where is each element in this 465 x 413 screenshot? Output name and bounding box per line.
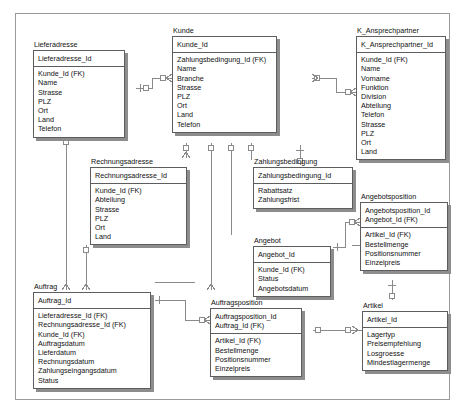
dot-k3	[229, 145, 234, 150]
er-diagram-canvas: Lieferadresse Lieferadresse_Id Kunde_Id …	[0, 0, 465, 413]
entity-box[interactable]: Angebot_Id Kunde_Id (FK) Status Angebots…	[253, 246, 331, 297]
attribute-row: Positionsnummer	[365, 249, 443, 258]
entity-box[interactable]: K_Ansprechpartner_Id Kunde_Id (FK) Name …	[356, 36, 446, 160]
entity-attribute-section: Kunde_Id (FK) Abteilung Strasse PLZ Ort …	[91, 184, 186, 245]
key-attribute: Angebotsposition_Id	[365, 206, 443, 215]
attribute-row: Ort	[38, 106, 120, 115]
attribute-row: Einzelpreis	[365, 258, 443, 267]
key-attribute: Zahlungsbedingung_Id	[258, 171, 348, 180]
attribute-row: Zahlungsbedingung_Id (FK)	[177, 55, 272, 64]
attribute-row: Kunde_Id (FK)	[38, 330, 146, 339]
attribute-row: Strasse	[177, 83, 272, 92]
attribute-row: Ort	[177, 101, 272, 110]
attribute-row: Ort	[361, 138, 441, 147]
attribute-row: Strasse	[361, 120, 441, 129]
key-attribute: Auftrag_Id (FK)	[215, 321, 297, 330]
entity-key-section: Kunde_Id	[173, 37, 276, 53]
key-attribute: Auftrag_Id	[38, 296, 146, 305]
dot-k4	[249, 145, 254, 150]
attribute-row: Name	[177, 64, 272, 73]
entity-box[interactable]: Rechnungsadresse_Id Kunde_Id (FK) Abteil…	[90, 167, 187, 245]
attribute-row: Division	[361, 92, 441, 101]
dot-k1	[184, 145, 189, 150]
entity-key-section: Auftragsposition_Id Auftrag_Id (FK)	[211, 309, 301, 334]
entity-key-section: Lieferadresse_Id	[34, 51, 124, 67]
dot-art-a	[390, 293, 395, 298]
attribute-row: Abteilung	[95, 195, 182, 204]
entity-angebotsposition[interactable]: Angebotsposition Angebotsposition_Id Ang…	[360, 192, 448, 271]
key-attribute: K_Ansprechpartner_Id	[361, 40, 441, 49]
entity-title: Angebotsposition	[360, 192, 448, 201]
dot-ra	[84, 247, 89, 252]
attribute-row: Kunde_Id (FK)	[38, 69, 120, 78]
key-attribute: Rechnungsadresse_Id	[95, 171, 182, 180]
entity-key-section: Angebot_Id	[254, 247, 330, 263]
attribute-row: Mindestlagermenge	[367, 358, 443, 367]
attribute-row: Zahlungseingangsdatum	[38, 366, 146, 375]
entity-key-section: K_Ansprechpartner_Id	[357, 37, 445, 53]
entity-title: K_Ansprechpartner	[356, 26, 446, 35]
attribute-row: Land	[95, 232, 182, 241]
attribute-row: Lieferdatum	[38, 348, 146, 357]
entity-key-section: Auftrag_Id	[34, 293, 150, 309]
attribute-row: Telefon	[38, 124, 120, 133]
attribute-row: Positionsnummer	[215, 355, 297, 364]
key-attribute: Artikel_Id	[367, 315, 443, 324]
foot-auftrag-kunde	[207, 284, 215, 290]
wire-kunde-lieferadresse	[136, 78, 172, 88]
attribute-row: Ort	[95, 223, 182, 232]
attribute-row: PLZ	[177, 92, 272, 101]
entity-artikel[interactable]: Artikel Artikel_Id Lagertyp Preisempfehl…	[362, 301, 448, 371]
entity-auftragsposition[interactable]: Auftragsposition Auftragsposition_Id Auf…	[210, 298, 302, 377]
attribute-row: Rechnungsdatum	[38, 357, 146, 366]
attribute-row: Land	[177, 110, 272, 119]
attribute-row: Auftragsdatum	[38, 339, 146, 348]
entity-title: Angebot	[253, 236, 331, 245]
attribute-row: Name	[361, 64, 441, 73]
entity-attribute-section: Zahlungsbedingung_Id (FK) Name Branche S…	[173, 53, 276, 132]
entity-attribute-section: Lagertyp Preisempfehlung Losgroesse Mind…	[363, 328, 447, 370]
entity-box[interactable]: Kunde_Id Zahlungsbedingung_Id (FK) Name …	[172, 36, 277, 133]
attribute-row: Telefon	[361, 110, 441, 119]
entity-key-section: Angebotsposition_Id Angebot_Id (FK)	[361, 203, 447, 228]
attribute-row: PLZ	[38, 97, 120, 106]
entity-attribute-section: Rabattsatz Zahlungsfrist	[254, 184, 352, 208]
attribute-row: Angebotsdatum	[258, 284, 326, 293]
attribute-row: Kunde_Id (FK)	[361, 55, 441, 64]
key-attribute: Angebot_Id (FK)	[365, 215, 443, 224]
entity-angebot[interactable]: Angebot Angebot_Id Kunde_Id (FK) Status …	[253, 236, 331, 297]
attribute-row: Kunde_Id (FK)	[95, 186, 182, 195]
attribute-row: Artikel_Id (FK)	[215, 336, 297, 345]
entity-box[interactable]: Artikel_Id Lagertyp Preisempfehlung Losg…	[362, 311, 448, 371]
entity-attribute-section: Artikel_Id (FK) Bestellmenge Positionsnu…	[361, 228, 447, 270]
key-attribute: Angebot_Id	[258, 250, 326, 259]
entity-lieferadresse[interactable]: Lieferadresse Lieferadresse_Id Kunde_Id …	[33, 40, 125, 138]
entity-box[interactable]: Zahlungsbedingung_Id Rabattsatz Zahlungs…	[253, 167, 353, 209]
entity-box[interactable]: Angebotsposition_Id Angebot_Id (FK) Arti…	[360, 202, 448, 271]
dot-ansprechpartner	[345, 90, 350, 95]
entity-rechnungsadresse[interactable]: Rechnungsadresse Rechnungsadresse_Id Kun…	[90, 157, 187, 245]
attribute-row: Land	[38, 115, 120, 124]
attribute-row: Kunde_Id (FK)	[258, 265, 326, 274]
attribute-row: Abteilung	[361, 101, 441, 110]
entity-title: Lieferadresse	[33, 40, 125, 49]
entity-box[interactable]: Auftragsposition_Id Auftrag_Id (FK) Arti…	[210, 308, 302, 377]
attribute-row: Name	[38, 78, 120, 87]
entity-attribute-section: Kunde_Id (FK) Name Vorname Funktion Divi…	[357, 53, 445, 160]
entity-key-section: Rechnungsadresse_Id	[91, 168, 186, 184]
entity-auftrag[interactable]: Auftrag Auftrag_Id Lieferadresse_Id (FK)…	[33, 282, 151, 389]
entity-kunde[interactable]: Kunde Kunde_Id Zahlungsbedingung_Id (FK)…	[172, 26, 277, 133]
dot-art-c	[345, 328, 350, 333]
attribute-row: Losgroesse	[367, 349, 443, 358]
attribute-row: Einzelpreis	[215, 364, 297, 373]
attribute-row: PLZ	[95, 214, 182, 223]
attribute-row: Vorname	[361, 74, 441, 83]
entity-zahlungsbedingung[interactable]: Zahlungsbedingung Zahlungsbedingung_Id R…	[253, 157, 353, 209]
entity-k-ansprechpartner[interactable]: K_Ansprechpartner K_Ansprechpartner_Id K…	[356, 26, 446, 160]
entity-box[interactable]: Auftrag_Id Lieferadresse_Id (FK) Rechnun…	[33, 292, 151, 389]
attribute-row: Bestellmenge	[365, 240, 443, 249]
entity-box[interactable]: Lieferadresse_Id Kunde_Id (FK) Name Stra…	[33, 50, 125, 138]
attribute-row: Strasse	[38, 88, 120, 97]
entity-title: Rechnungsadresse	[90, 157, 187, 166]
entity-attribute-section: Kunde_Id (FK) Name Strasse PLZ Ort Land …	[34, 67, 124, 137]
